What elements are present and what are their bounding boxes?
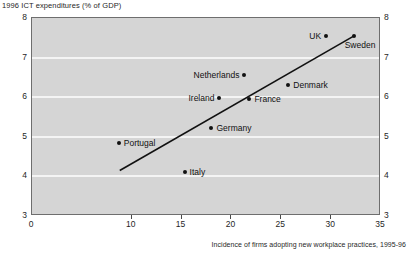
x-tick-label-25: 25 [276, 219, 285, 229]
x-tick-mark-15 [181, 215, 182, 219]
scatter-chart: 1996 ICT expenditures (% of GDP) Portuga… [0, 0, 410, 257]
trend-line [32, 18, 381, 216]
x-axis-caption: Incidence of firms adopting new workplac… [212, 241, 406, 248]
y-tick-left-3: 3 [7, 210, 27, 220]
data-label-france: France [254, 94, 280, 104]
data-point-ireland [217, 96, 221, 100]
data-label-germany: Germany [216, 123, 251, 133]
data-point-germany [209, 126, 213, 130]
data-label-sweden: Sweden [345, 40, 376, 50]
data-label-italy: Italy [190, 167, 206, 177]
data-point-denmark [286, 83, 290, 87]
x-tick-label-15: 15 [176, 219, 185, 229]
data-point-france [247, 97, 251, 101]
data-point-italy [183, 170, 187, 174]
data-label-ireland: Ireland [188, 93, 214, 103]
y-tick-left-4: 4 [7, 170, 27, 180]
y-tick-right-8: 8 [384, 12, 404, 22]
y-tick-right-3: 3 [384, 210, 404, 220]
y-tick-left-8: 8 [7, 12, 27, 22]
x-tick-label-35: 35 [375, 219, 384, 229]
data-point-portugal [117, 141, 121, 145]
y-tick-left-5: 5 [7, 131, 27, 141]
x-tick-label-20: 20 [226, 219, 235, 229]
data-point-uk [324, 34, 328, 38]
x-tick-label-10: 10 [126, 219, 135, 229]
y-tick-right-4: 4 [384, 170, 404, 180]
data-point-sweden [352, 34, 356, 38]
data-label-portugal: Portugal [124, 138, 156, 148]
y-tick-right-6: 6 [384, 91, 404, 101]
data-label-denmark: Denmark [293, 80, 327, 90]
y-tick-right-5: 5 [384, 131, 404, 141]
y-tick-right-7: 7 [384, 52, 404, 62]
x-tick-label-30: 30 [325, 219, 334, 229]
data-point-netherlands [242, 73, 246, 77]
x-tick-mark-30 [330, 215, 331, 219]
plot-area: PortugalItalyGermanyIrelandNetherlandsFr… [31, 17, 380, 215]
x-tick-mark-20 [230, 215, 231, 219]
x-tick-mark-10 [131, 215, 132, 219]
y-tick-left-7: 7 [7, 52, 27, 62]
data-label-uk: UK [309, 31, 321, 41]
x-tick-mark-25 [280, 215, 281, 219]
chart-title: 1996 ICT expenditures (% of GDP) [2, 1, 121, 10]
x-tick-label-0: 0 [29, 219, 34, 229]
data-label-netherlands: Netherlands [194, 70, 240, 80]
y-tick-left-6: 6 [7, 91, 27, 101]
